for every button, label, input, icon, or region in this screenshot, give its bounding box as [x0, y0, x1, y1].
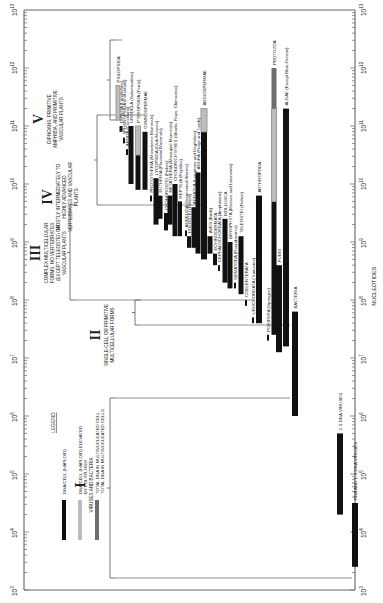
bar-segment-haploid	[245, 300, 247, 306]
bar-segment-polyploid	[201, 109, 207, 132]
tick-exponent: 4	[10, 528, 15, 531]
bar-segment-haploid	[337, 433, 343, 514]
legend-label: BY POLYPLOIDY	[83, 459, 88, 494]
group-label-line: MULTICELLULAR FORMS	[110, 307, 115, 362]
tick-exponent: 7	[359, 354, 364, 357]
chart-canvas: 1031031041041051051061061071071081081091…	[0, 0, 383, 603]
bar-segment-haploid	[218, 265, 220, 271]
group-label-line: (EXCEPT TELEOSTEI) OR	[56, 224, 61, 281]
group-bracket	[97, 115, 103, 205]
group-label-line: MOSTLY INTERMEDIATELY TO	[56, 163, 61, 230]
tick-exponent: 5	[10, 470, 15, 473]
bar-label: PORIFERA (Sponges)	[266, 288, 271, 332]
group-numeral-III: III	[28, 245, 43, 261]
bar-label: ANURA (Frogs and Toads)	[196, 117, 201, 169]
left-tick-label: 106	[10, 412, 18, 422]
tick-exponent: 11	[359, 120, 364, 125]
bar-segment-haploid	[223, 219, 228, 283]
bar-label: ALGAE (Except Blue-Greens)	[284, 47, 289, 106]
tick-exponent: 10	[10, 177, 15, 183]
bar-segment-multinucleate	[272, 68, 277, 109]
tick-exponent: 7	[10, 354, 15, 357]
bar-label: 2-S DNA VIRUSES	[338, 393, 343, 431]
group-label-line: PLANTS	[74, 188, 79, 206]
bar-label: PROTOZOA	[272, 40, 277, 65]
bar-segment-haploid	[292, 312, 298, 416]
right-tick-label: 108	[359, 296, 367, 306]
bar-label: EUTHERIA (Placental Mammals)	[158, 128, 163, 193]
legend: LEGENDDNA/CELL (HAPLOID)DNA/CELL (HAPLOI…	[50, 409, 105, 540]
group-label-line: SINGLE-CELL OR PRIMITIVE	[104, 304, 109, 366]
bar-label: BACTERIA	[293, 287, 298, 309]
tick-exponent: 12	[359, 61, 364, 67]
bar-label: TELEOSTEI (Fishes)	[239, 191, 244, 233]
bar-label: REPTILIA (Reptiles)	[178, 159, 183, 199]
bar-segment-haploid	[143, 132, 148, 190]
bar-segment-haploid	[352, 503, 358, 567]
left-tick-label: 104	[10, 528, 18, 538]
bar-label: CEPHALOCHORDATA (Amphioxus)	[217, 191, 222, 262]
legend-swatch-polyploid	[78, 500, 82, 540]
tick-exponent: 13	[359, 3, 364, 9]
bar-segment-haploid	[267, 335, 269, 341]
tick-exponent: 3	[359, 586, 364, 589]
bar-labels: PSILOPSIDADIPNOA (Lungfishes)SPHENOPSIDA…	[116, 40, 358, 500]
right-tick-label: 1013	[359, 3, 367, 16]
group-label-line: VIRUSES AND BACTERIA	[89, 456, 94, 512]
right-tick-label: 1012	[359, 61, 367, 74]
group-label-line: COMPLEX MULTICELLULAR	[44, 222, 49, 284]
group-label-line: DIPNOANS, PRIMITIVE	[47, 94, 52, 144]
group-label-line: VERTEBRATES AND VASCULAR	[68, 161, 73, 231]
bar-segment-haploid	[272, 201, 277, 334]
right-tick-label: 103	[359, 586, 367, 596]
bar-segment-haploid	[173, 184, 178, 236]
left-tick-label: 1012	[10, 61, 18, 74]
group-numeral-V: V	[31, 114, 46, 124]
right-tick-label: 106	[359, 412, 367, 422]
bar-segment-haploid	[252, 317, 254, 323]
group-label-line: HIGHLY ADVANCED	[62, 175, 67, 219]
right-tick-label: 104	[359, 528, 367, 538]
group-label-line: FORMS, NO VERTEBRATES	[50, 223, 55, 284]
group-label-line: VASCULAR PLANTS	[59, 97, 64, 141]
left-tick-label: 108	[10, 296, 18, 306]
bar-segment-haploid	[158, 196, 163, 219]
legend-label: DNA/CELL (HAPLOID)	[62, 449, 67, 494]
tick-exponent: 3	[10, 586, 15, 589]
group-numeral-I: I	[73, 482, 88, 487]
legend-label: TOTAL DNA IN MULTINUCLEATED CELLS	[100, 409, 105, 494]
left-tick-label: 1010	[10, 177, 18, 190]
group-label-line: VASCULAR PLANTS	[62, 231, 67, 275]
bar-segment-haploid	[187, 236, 191, 248]
bar-segment-polyploid	[136, 126, 141, 155]
tick-exponent: 8	[359, 296, 364, 299]
legend-swatch-multinucleate	[95, 500, 99, 540]
bar-label: FUNGI	[277, 249, 282, 263]
group-bracket	[135, 300, 141, 325]
right-tick-label: 107	[359, 354, 367, 364]
bar-segment-haploid	[283, 109, 289, 347]
left-tick-label: 1013	[10, 3, 18, 16]
legend-swatch-haploid	[62, 500, 66, 540]
bar-segment-haploid	[208, 236, 213, 253]
bar-segment-haploid	[150, 196, 152, 202]
bar-segment-haploid	[276, 265, 282, 352]
tick-exponent: 10	[359, 177, 364, 183]
tick-exponent: 9	[10, 238, 15, 241]
bar-segment-haploid	[239, 236, 244, 294]
bar-label: RNA AND 1-S DNA VIRUSES	[353, 442, 358, 500]
left-tick-label: 1011	[10, 120, 18, 132]
tick-exponent: 11	[10, 120, 15, 125]
bar-label: ARTHROPODA	[257, 162, 262, 193]
legend-title: LEGEND	[50, 412, 56, 433]
tick-exponent: 8	[10, 296, 15, 299]
group-numeral-IV: IV	[40, 189, 55, 205]
left-tick-label: 109	[10, 238, 18, 248]
right-tick-label: 1011	[359, 120, 367, 132]
tick-exponent: 6	[10, 412, 15, 415]
bar-segment-haploid	[126, 149, 128, 155]
bar-label: UROCHORDATA (Tunicates)	[251, 257, 256, 314]
left-tick-label: 105	[10, 470, 18, 480]
left-tick-label: 107	[10, 354, 18, 364]
bar-segment-haploid	[256, 196, 262, 324]
